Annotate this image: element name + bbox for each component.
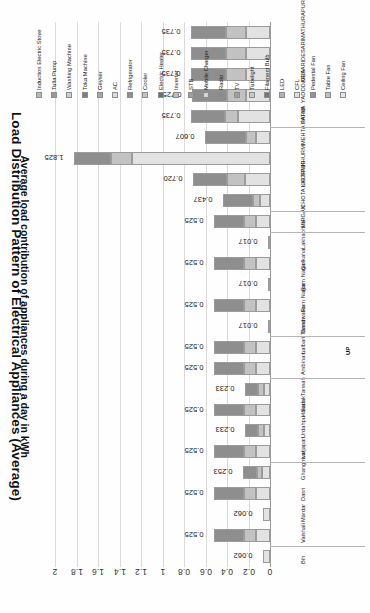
bar-segment (256, 404, 270, 417)
bar-value-label: 0.233 (209, 423, 241, 436)
stacked-bar: 0.233 (245, 383, 270, 396)
gridlines (55, 22, 270, 567)
bar-segment (244, 529, 256, 542)
bar-segment (244, 362, 256, 375)
legend-swatch-icon (264, 92, 270, 98)
tick-label: 1 (160, 567, 165, 577)
stacked-bar: 0.525 (214, 341, 270, 354)
bar-segment (268, 320, 270, 333)
legend-item-label: Ceiling Fan (340, 61, 346, 90)
group-separator (270, 232, 365, 233)
bar-segment (244, 215, 256, 228)
legend-item[interactable]: Tulla Pump (51, 61, 57, 98)
bar-segment (214, 529, 245, 542)
chart-legend: Induction Electric StoveTulla PumpWashin… (38, 12, 368, 98)
legend-item-label: Refrigerator (127, 59, 133, 90)
stacked-bar: 1.825 (74, 152, 270, 165)
legend-item[interactable]: Filament Bulb (264, 55, 270, 98)
legend-swatch-icon (173, 92, 179, 98)
stacked-bar: 0.607 (205, 131, 270, 144)
legend-item-label: Washing Machine (66, 44, 72, 90)
category-label: Ghanghwal (300, 451, 306, 480)
bar-segment (214, 362, 245, 375)
value-axis-ticks: 00.20.40.60.811.21.41.61.82 (55, 567, 270, 583)
bar-segment (244, 257, 256, 270)
bar-value-label: 0.525 (178, 444, 210, 457)
legend-swatch-icon (112, 92, 118, 98)
legend-item[interactable]: Inverter (173, 70, 179, 98)
legend-item[interactable]: Ceiling Fan (340, 61, 346, 98)
legend-item[interactable]: Induction Electric Stove (36, 29, 42, 98)
group-separator (270, 462, 365, 463)
bar-segment (263, 550, 270, 563)
bar-segment (260, 194, 270, 207)
gridline (227, 22, 228, 567)
bar-segment (262, 466, 270, 479)
legend-item[interactable]: LED (279, 79, 285, 98)
bar-segment (214, 341, 245, 354)
legend-item[interactable]: Cooler (142, 73, 148, 98)
legend-item[interactable]: Pedestal Fan (310, 56, 316, 98)
bar-segment (268, 236, 270, 249)
bar-segment (244, 299, 256, 312)
legend-item-label: Radio (218, 75, 224, 90)
legend-item[interactable]: AC (112, 82, 118, 98)
legend-item[interactable]: STB (188, 79, 194, 98)
legend-item-label: Inverter (173, 70, 179, 90)
legend-item-label: Tulla Pump (51, 61, 57, 90)
legend-swatch-icon (203, 92, 209, 98)
legend-item[interactable]: CFL (294, 79, 300, 98)
bar-segment (256, 529, 270, 542)
bar-segment (256, 131, 270, 144)
tick-label: 2 (53, 567, 58, 577)
bar-value-label: 0.062 (227, 507, 259, 520)
group-separator (270, 127, 365, 128)
legend-item-label: STB (188, 79, 194, 90)
legend-item-label: Pedestal Fan (310, 56, 316, 90)
gridline (120, 22, 121, 567)
bar-value-label: 0.017 (232, 319, 264, 332)
category-label: CHOTA LIGTIPUR (300, 160, 306, 208)
legend-swatch-icon (142, 92, 148, 98)
stacked-bar: 0.525 (214, 529, 270, 542)
bar-segment (227, 173, 245, 186)
legend-item[interactable]: Mobile Charger (203, 50, 209, 98)
gridline (249, 22, 250, 567)
legend-item-label: TV (234, 83, 240, 90)
bar-segment (191, 110, 225, 123)
bar-segment (193, 173, 227, 186)
legend-item[interactable]: Refrigerator (127, 59, 133, 98)
bar-segment (214, 299, 245, 312)
legend-item[interactable]: Tubelight (249, 66, 255, 98)
legend-item[interactable]: TV (234, 83, 240, 98)
bar-value-label: 0.525 (178, 486, 210, 499)
legend-item[interactable]: Geyser (97, 71, 103, 98)
bar-segment (244, 445, 256, 458)
gridline (163, 22, 164, 567)
stacked-bar: 0.525 (214, 215, 270, 228)
stacked-bar: 0.062 (263, 550, 270, 563)
bar-value-label: 0.525 (178, 340, 210, 353)
legend-item-label: Toka Machine (82, 54, 88, 90)
legend-item[interactable]: Table Fan (325, 65, 331, 98)
bar-segment (238, 110, 270, 123)
bar-segment (245, 173, 270, 186)
legend-item[interactable]: Electric Heater (158, 52, 164, 98)
bar-segment (256, 299, 270, 312)
legend-swatch-icon (234, 92, 240, 98)
legend-swatch-icon (325, 92, 331, 98)
legend-item-label: Cooler (142, 73, 148, 90)
legend-item[interactable]: Washing Machine (66, 44, 72, 98)
stacked-bar: 0.017 (268, 278, 270, 291)
category-label: Mardar (300, 504, 306, 522)
bar-value-label: 0.233 (209, 382, 241, 395)
bar-value-label: 0.525 (178, 214, 210, 227)
tick-label: 1.6 (92, 567, 104, 577)
legend-item[interactable]: Radio (218, 75, 224, 98)
bar-value-label: 0.062 (227, 549, 259, 562)
legend-item-label: CFL (294, 79, 300, 90)
legend-item[interactable]: Toka Machine (82, 54, 88, 98)
legend-swatch-icon (127, 92, 133, 98)
tick-label: 0.6 (200, 567, 212, 577)
bar-segment (214, 257, 245, 270)
